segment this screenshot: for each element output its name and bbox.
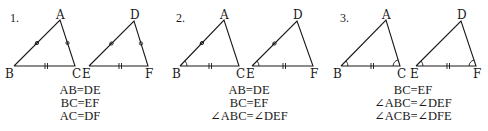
vertex-label: D [130, 8, 140, 22]
vertex-label: C [236, 67, 245, 81]
triangle-def: D E F [246, 8, 318, 81]
vertex-label: E [82, 67, 91, 81]
angle-mark-f [469, 60, 474, 66]
triangle-edges [252, 21, 313, 66]
condition: ∠ACB=∠DFE [374, 109, 452, 123]
condition: ∠ABC=∠DEF [210, 109, 287, 123]
vertex-label: F [310, 67, 318, 81]
panel-1: 1. A B C D E F [5, 8, 153, 123]
vertex-label: B [172, 67, 181, 81]
vertex-label: A [381, 8, 391, 22]
triangle-def: D E F [410, 8, 481, 81]
vertex-label: F [473, 67, 481, 81]
triangle-edges [416, 21, 476, 66]
panel-2: 2. A B C D E F AB=DE BC=EF ∠ABC=∠D [172, 8, 318, 123]
condition: BC=EF [230, 96, 268, 110]
vertex-label: F [145, 67, 153, 81]
conditions: AB=DE BC=EF ∠ABC=∠DEF [210, 83, 287, 123]
triangle-edges [341, 20, 400, 66]
angle-mark-e [257, 61, 259, 66]
condition: AC=DF [60, 109, 100, 123]
triangle-edges [180, 20, 239, 66]
angle-mark-c [393, 60, 398, 66]
condition: ∠ABC=∠DEF [374, 96, 451, 110]
condition: AB=DE [228, 83, 269, 97]
vertex-label: B [5, 67, 14, 81]
conditions: BC=EF ∠ABC=∠DEF ∠ACB=∠DFE [374, 83, 452, 123]
vertex-label: A [219, 8, 229, 22]
panel-number: 3. [340, 11, 349, 25]
panel-number: 2. [176, 11, 185, 25]
angle-mark-b [346, 61, 348, 66]
conditions: AB=DE BC=EF AC=DF [59, 83, 100, 123]
panel-number: 1. [10, 11, 19, 25]
angle-mark-b [185, 61, 187, 66]
vertex-label: A [55, 8, 65, 22]
triangle-def: D E F [82, 8, 153, 81]
panel-3: 3. A B C D E F BC=EF ∠ABC=∠DEF ∠ACB=∠DFE [333, 8, 481, 123]
vertex-label: E [246, 67, 255, 81]
vertex-label: C [397, 67, 406, 81]
vertex-label: D [293, 8, 303, 22]
condition: BC=EF [394, 83, 432, 97]
condition: AB=DE [59, 83, 100, 97]
vertex-label: D [457, 8, 467, 22]
vertex-label: E [410, 67, 419, 81]
angle-mark-e [421, 61, 423, 66]
condition: BC=EF [61, 96, 99, 110]
vertex-label: C [72, 67, 81, 81]
congruence-diagram: 1. A B C D E F [0, 0, 488, 131]
vertex-label: B [333, 67, 342, 81]
